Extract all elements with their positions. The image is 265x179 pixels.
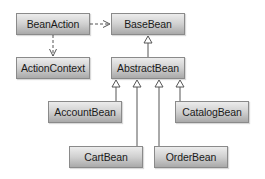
class-label: BeanAction xyxy=(27,18,80,30)
class-actioncontext: ActionContext xyxy=(16,57,90,79)
class-label: OrderBean xyxy=(166,151,216,163)
class-label: BaseBean xyxy=(124,18,172,30)
generalization-orderbean-abstractbean xyxy=(155,80,163,146)
class-label: AbstractBean xyxy=(117,62,179,74)
generalization-accountbean-abstractbean xyxy=(112,80,120,101)
generalization-catalogbean-abstractbean xyxy=(176,80,184,101)
class-orderbean: OrderBean xyxy=(154,146,228,168)
class-beanaction: BeanAction xyxy=(16,13,90,35)
generalization-abstractbean-basebean xyxy=(144,36,152,57)
class-diagram: BeanAction BaseBean ActionContext Abstra… xyxy=(0,0,265,179)
class-label: CartBean xyxy=(84,151,128,163)
class-abstractbean: AbstractBean xyxy=(111,57,185,79)
generalization-cartbean-abstractbean xyxy=(133,80,141,146)
class-label: CatalogBean xyxy=(182,106,242,118)
class-label: ActionContext xyxy=(21,62,85,74)
class-label: AccountBean xyxy=(54,106,115,118)
class-accountbean: AccountBean xyxy=(48,101,122,123)
class-cartbean: CartBean xyxy=(69,146,143,168)
class-catalogbean: CatalogBean xyxy=(175,101,249,123)
class-basebean: BaseBean xyxy=(111,13,185,35)
